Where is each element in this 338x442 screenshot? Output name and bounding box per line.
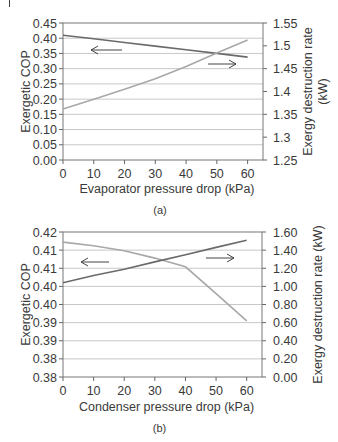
y-tick-label: 0.35 [33,47,57,61]
x-tick-label: 30 [148,167,162,181]
y-tick-label: 0.25 [33,77,57,91]
y-right-tick-label: 0.20 [273,352,297,366]
figure-caption: (a) [153,204,166,216]
y-right-tick-label: 1.55 [273,17,297,31]
x-tick-label: 30 [148,384,162,398]
y-right-tick-label: 1.5 [273,39,290,53]
y-tick-label: 0.38 [33,352,57,366]
y-right-tick-label: 1.40 [273,244,297,258]
y-tick-label: 0.39 [33,334,57,348]
x-tick-label: 50 [209,384,223,398]
x-tick-label: 40 [179,384,193,398]
x-tick-label: 20 [117,384,131,398]
figure-caption: (b) [153,422,166,434]
y-tick-label: 0.45 [33,17,57,31]
x-tick-label: 50 [210,167,224,181]
y-axis-title: Exergetic COP [19,263,33,346]
y-right-tick-label: 1.25 [273,154,297,168]
x-tick-label: 40 [179,167,193,181]
figure-canvas: 0.000.050.100.150.200.250.300.350.400.45… [0,0,338,442]
x-tick-label: 0 [60,384,67,398]
y-tick-label: 0.41 [33,244,57,258]
y-tick-label: 0.41 [33,262,57,276]
y-tick-label: 0.40 [33,32,57,46]
x-tick-label: 20 [118,167,132,181]
y-right-tick-label: 0.60 [273,316,297,330]
y-right-tick-label: 1.60 [273,226,297,240]
y-tick-label: 0.15 [33,108,57,122]
plot-frame [63,23,263,160]
y-right-axis-title: Exergy destruction rate (kW) [311,225,325,383]
series-line [63,242,247,321]
chart-b: 0.380.380.390.390.400.400.410.410.420.00… [19,225,325,434]
y-tick-label: 0.05 [33,138,57,152]
y-right-tick-label: 1.3 [273,131,290,145]
y-right-axis-title: Exergy destruction rate [301,27,315,156]
y-right-tick-label: 1.4 [273,85,290,99]
x-tick-label: 0 [60,167,67,181]
x-axis-title: Condenser pressure drop (kPa) [79,400,254,414]
y-tick-label: 0.10 [33,123,57,137]
y-tick-label: 0.40 [33,280,57,294]
y-tick-label: 0.00 [33,154,57,168]
y-right-tick-label: 0.40 [273,334,297,348]
x-tick-label: 10 [87,167,101,181]
y-tick-label: 0.38 [33,371,57,385]
y-right-tick-label: 1.45 [273,62,297,76]
y-right-tick-label: 0.80 [273,298,297,312]
y-right-tick-label: 0.00 [273,371,297,385]
y-tick-label: 0.40 [33,298,57,312]
chart-a: 0.000.050.100.150.200.250.300.350.400.45… [19,17,330,217]
x-axis-title: Evaporator pressure drop (kPa) [79,182,254,196]
x-tick-label: 60 [240,384,254,398]
y-tick-label: 0.39 [33,316,57,330]
x-tick-label: 60 [241,167,255,181]
y-right-tick-label: 1.35 [273,108,297,122]
x-tick-label: 10 [87,384,101,398]
y-axis-title: Exergetic COP [19,50,33,133]
y-tick-label: 0.30 [33,62,57,76]
y-right-tick-label: 1.00 [273,280,297,294]
y-tick-label: 0.42 [33,226,57,240]
y-right-tick-label: 1.20 [273,262,297,276]
y-right-axis-unit: (kW) [316,78,330,104]
y-tick-label: 0.20 [33,93,57,107]
